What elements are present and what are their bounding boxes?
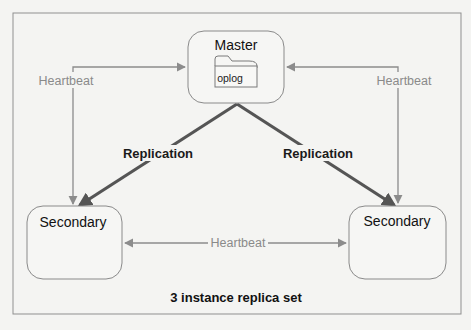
diagram-caption: 3 instance replica set xyxy=(170,290,302,305)
replication-label-right: Replication xyxy=(283,146,353,161)
heartbeat-edge-right: Heartbeat xyxy=(287,67,440,203)
replication-edge-right: Replication xyxy=(237,104,394,205)
heartbeat-label-bottom: Heartbeat xyxy=(211,236,266,250)
secondary-node-left: Secondary xyxy=(27,206,122,279)
secondary-left-label: Secondary xyxy=(40,214,107,230)
heartbeat-label-left: Heartbeat xyxy=(39,74,94,88)
secondary-node-right: Secondary xyxy=(349,206,446,279)
heartbeat-edge-bottom: Heartbeat xyxy=(125,235,346,251)
master-label: Master xyxy=(215,37,258,53)
replication-edge-left: Replication xyxy=(80,104,237,205)
replication-label-left: Replication xyxy=(123,146,193,161)
master-node: Master oplog xyxy=(188,31,284,103)
heartbeat-label-right: Heartbeat xyxy=(377,74,432,88)
secondary-right-label: Secondary xyxy=(364,213,431,229)
replica-set-diagram: Heartbeat Heartbeat Heartbeat Replicatio… xyxy=(0,0,471,330)
oplog-label: oplog xyxy=(217,72,243,84)
heartbeat-edge-left: Heartbeat xyxy=(30,67,185,204)
